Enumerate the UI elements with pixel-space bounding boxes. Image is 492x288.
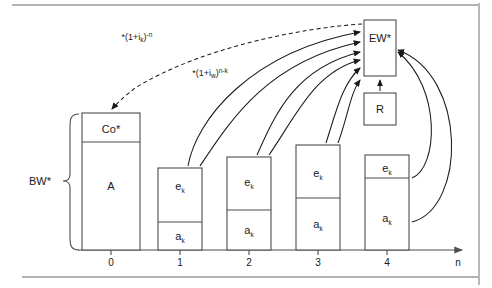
- compound-arrow-period-3: [326, 68, 360, 143]
- terminal-value-group: EW*: [364, 20, 396, 76]
- period-2-bar: ek ak: [227, 157, 271, 250]
- time-axis: [78, 250, 462, 255]
- axis-name-label: n: [455, 257, 461, 268]
- bw-brace-group: BW*: [29, 114, 79, 250]
- terminal-value-box: [364, 20, 396, 76]
- bw-brace-label: BW*: [29, 175, 52, 187]
- period-0-top-label: Co*: [102, 123, 121, 135]
- axis-tick-4: 4: [384, 257, 390, 268]
- diagram-canvas: 0 1 2 3 4 n Co* A BW* ek ak: [0, 0, 492, 288]
- period-2-box: [227, 157, 271, 250]
- period-3-bar: ek ak: [296, 145, 340, 250]
- discount-formula-label: *(1+ik)-n: [122, 31, 153, 44]
- axis-tick-2: 2: [246, 257, 252, 268]
- axis-tick-3: 3: [315, 257, 321, 268]
- period-1-bar: ek ak: [158, 168, 202, 250]
- axis-tick-0: 0: [108, 257, 114, 268]
- residual-group: R: [364, 80, 396, 125]
- residual-label: R: [376, 103, 384, 115]
- period-0-body-label: A: [107, 180, 115, 192]
- period-4-bar: ek ak: [365, 155, 409, 250]
- bw-brace: [63, 114, 79, 250]
- compound-arrow-period-2: [257, 52, 360, 155]
- compound-formula-label: *(1+iw)n-k: [192, 67, 228, 80]
- axis-tick-labels: 0 1 2 3 4 n: [108, 257, 461, 268]
- period-0-column: Co* A: [82, 113, 140, 250]
- terminal-value-label: EW*: [369, 32, 392, 44]
- compound-arrow-period-3b: [338, 80, 360, 143]
- axis-tick-1: 1: [177, 257, 183, 268]
